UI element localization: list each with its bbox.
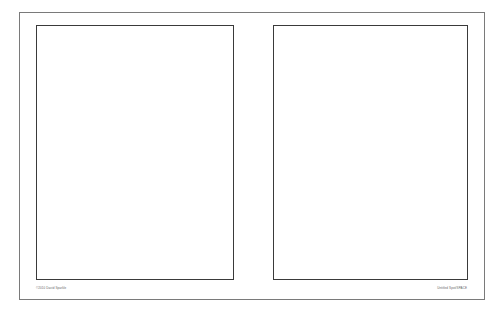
footer-right-text: Untitled Spot/SPACE	[437, 286, 467, 290]
footer-left-text: ©2010 David Sparkle	[36, 286, 66, 290]
right-page-box	[273, 25, 468, 280]
left-page-box	[36, 25, 234, 280]
